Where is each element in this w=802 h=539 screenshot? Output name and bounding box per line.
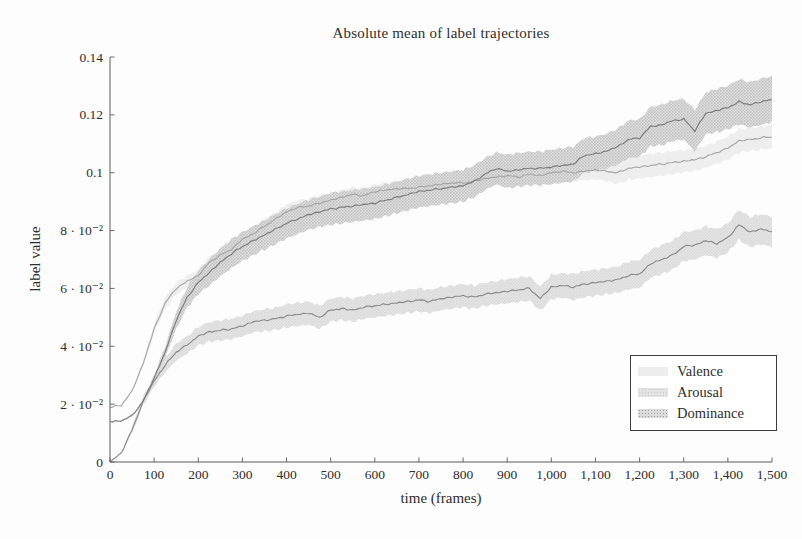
svg-text:0: 0 xyxy=(107,467,114,482)
chart-title: Absolute mean of label trajectories xyxy=(110,25,772,42)
line-chart-canvas: 01002003004005006007008009001,0001,1001,… xyxy=(0,0,802,539)
legend-label-dominance: Dominance xyxy=(677,405,744,422)
chart-figure: { "page": { "background": "#fdfdfd", "te… xyxy=(0,0,802,539)
svg-text:1,000: 1,000 xyxy=(536,467,567,482)
svg-text:1,200: 1,200 xyxy=(624,467,655,482)
valence-band-swatch xyxy=(638,367,668,376)
legend: Valence Arousal Dominance xyxy=(630,355,777,431)
svg-text:200: 200 xyxy=(188,467,209,482)
svg-text:300: 300 xyxy=(232,467,253,482)
legend-item-dominance: Dominance xyxy=(638,403,770,424)
svg-text:4 · 10⁻²: 4 · 10⁻² xyxy=(60,339,103,354)
y-axis-label: label value xyxy=(27,226,44,291)
svg-text:800: 800 xyxy=(453,467,474,482)
svg-text:500: 500 xyxy=(321,467,342,482)
svg-text:700: 700 xyxy=(409,467,430,482)
svg-text:1,100: 1,100 xyxy=(580,467,611,482)
svg-text:0.14: 0.14 xyxy=(79,50,103,65)
svg-text:0.1: 0.1 xyxy=(86,165,103,180)
svg-text:900: 900 xyxy=(497,467,518,482)
legend-label-valence: Valence xyxy=(677,363,723,380)
svg-text:1,400: 1,400 xyxy=(713,467,744,482)
x-axis-label: time (frames) xyxy=(110,490,772,507)
svg-text:0: 0 xyxy=(96,455,103,470)
legend-item-arousal: Arousal xyxy=(638,382,770,403)
arousal-band-swatch xyxy=(638,388,668,397)
svg-text:2 · 10⁻²: 2 · 10⁻² xyxy=(60,397,103,412)
svg-text:1,300: 1,300 xyxy=(669,467,700,482)
svg-text:100: 100 xyxy=(144,467,165,482)
svg-text:6 · 10⁻²: 6 · 10⁻² xyxy=(60,281,103,296)
legend-label-arousal: Arousal xyxy=(677,384,723,401)
svg-text:1,500: 1,500 xyxy=(757,467,788,482)
svg-text:0.12: 0.12 xyxy=(79,107,103,122)
svg-text:8 · 10⁻²: 8 · 10⁻² xyxy=(60,223,103,238)
svg-text:600: 600 xyxy=(365,467,386,482)
svg-text:400: 400 xyxy=(276,467,297,482)
dominance-band-swatch xyxy=(638,409,668,418)
legend-item-valence: Valence xyxy=(638,361,770,382)
